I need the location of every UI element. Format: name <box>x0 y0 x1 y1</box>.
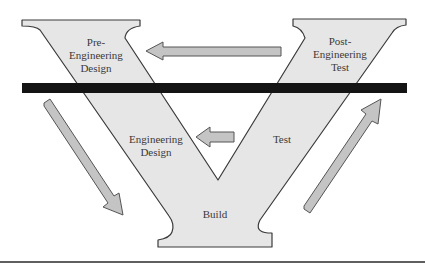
phase-label-engineering-design: Engineering Design <box>122 133 190 159</box>
v-model-diagram: Pre- Engineering Design Post- Engineerin… <box>0 0 425 263</box>
phase-label-test: Test <box>262 133 302 146</box>
phase-label-post-engineering-test: Post- Engineering Test <box>304 35 376 74</box>
arrow-test-to-design-icon <box>196 127 234 147</box>
phase-label-build: Build <box>195 208 235 221</box>
horizontal-divider <box>22 83 407 93</box>
phase-label-pre-engineering-design: Pre- Engineering Design <box>60 36 132 75</box>
arrow-post-to-pre-icon <box>146 42 281 60</box>
